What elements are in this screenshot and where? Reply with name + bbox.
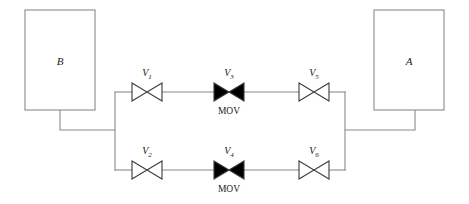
- valve-symbol-v4[interactable]: [214, 161, 244, 179]
- valve-symbol-v5[interactable]: [299, 83, 329, 101]
- valve-symbol-v3[interactable]: [214, 83, 244, 101]
- mov-label-v3: MOV: [218, 106, 240, 116]
- vessel-b-label: B: [57, 55, 64, 67]
- valve-symbol-v1[interactable]: [132, 83, 162, 101]
- piping-diagram: B A V1 V3 V5 V2 V4 V6 MOV MOV: [0, 0, 469, 204]
- pipe-network: [60, 92, 415, 170]
- valve-label-v4: V4: [224, 145, 234, 159]
- valve-label-v6: V6: [309, 145, 319, 159]
- pipe-vessel-b-outlet: [60, 110, 115, 130]
- pipe-vessel-a-inlet: [345, 110, 415, 130]
- mov-label-v4: MOV: [218, 184, 240, 194]
- valve-label-v2: V2: [142, 145, 152, 159]
- valve-symbols: [132, 83, 329, 179]
- vessel-a-label: A: [406, 55, 413, 67]
- diagram-canvas: [0, 0, 469, 204]
- valve-label-v1: V1: [142, 67, 152, 81]
- valve-symbol-v6[interactable]: [299, 161, 329, 179]
- valve-symbol-v2[interactable]: [132, 161, 162, 179]
- valve-label-v3: V3: [224, 67, 234, 81]
- valve-label-v5: V5: [309, 67, 319, 81]
